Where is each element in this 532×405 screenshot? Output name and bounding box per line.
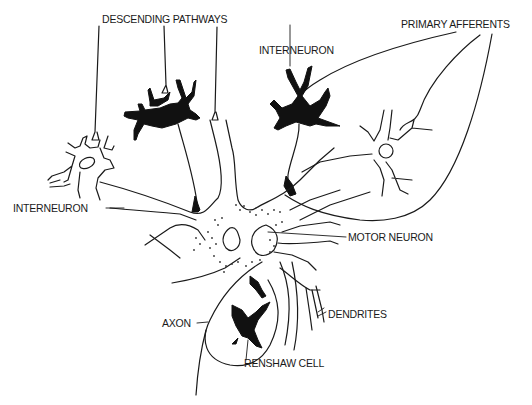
top-interneuron-black (270, 66, 340, 196)
primary-afferent-fibers (285, 32, 492, 221)
renshaw-cell-black (232, 276, 270, 360)
label-axon: AXON (162, 317, 191, 329)
label-primary-afferents: PRIMARY AFFERENTS (401, 18, 510, 30)
label-dendrites: DENDRITES (328, 308, 387, 320)
label-descending-pathways: DESCENDING PATHWAYS (102, 13, 227, 25)
motor-neuron (100, 120, 370, 290)
neuron-diagram: DESCENDING PATHWAYS INTERNEURON PRIMARY … (0, 0, 532, 405)
label-interneuron-top: INTERNEURON (259, 44, 334, 56)
lower-right-dendrites (306, 286, 324, 330)
label-renshaw-cell: RENSHAW CELL (244, 357, 324, 369)
left-interneuron-cell (48, 136, 114, 200)
nissl-granules (193, 204, 283, 273)
label-interneuron-left: INTERNEURON (13, 202, 88, 214)
label-motor-neuron: MOTOR NEURON (348, 231, 433, 243)
